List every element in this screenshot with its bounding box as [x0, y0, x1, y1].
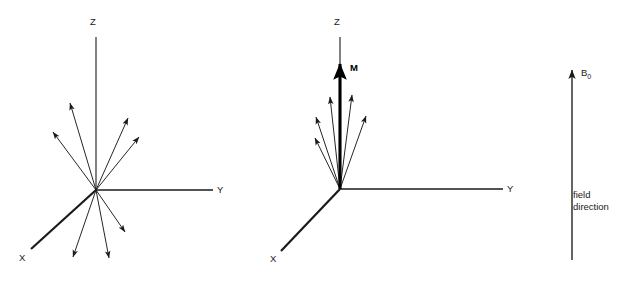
spin-vector	[70, 103, 96, 190]
x-axis-line-panel2	[281, 189, 340, 251]
field-direction-caption: field direction	[573, 189, 609, 212]
b0-field-label: B0	[581, 67, 591, 80]
z-axis-label-panel1: Z	[90, 16, 96, 27]
y-axis-label-panel2: Y	[507, 183, 514, 194]
field-caption-line-2: direction	[573, 201, 609, 212]
panel-field-direction: B0 field direction	[572, 67, 609, 260]
field-caption-line-1: field	[573, 189, 590, 200]
spin-vector	[340, 95, 352, 189]
magnetization-label: M	[350, 62, 358, 73]
nmr-magnetization-diagram: Z Y X Z Y X	[0, 0, 638, 283]
y-axis-label-panel1: Y	[217, 184, 224, 195]
spin-vector	[315, 138, 340, 189]
b0-label-subscript: 0	[587, 73, 591, 80]
z-axis-label-panel2: Z	[334, 16, 340, 27]
panel-random-spins: Z Y X	[19, 16, 224, 263]
x-axis-label-panel2: X	[270, 253, 277, 264]
diagram-canvas: Z Y X Z Y X	[0, 0, 638, 283]
x-axis-label-panel1: X	[19, 252, 26, 263]
spin-vector	[340, 116, 366, 189]
spin-vector	[96, 137, 139, 190]
spin-vector	[53, 132, 96, 190]
spin-vector	[96, 118, 128, 190]
panel-aligned-spins: Z Y X M	[270, 16, 514, 264]
